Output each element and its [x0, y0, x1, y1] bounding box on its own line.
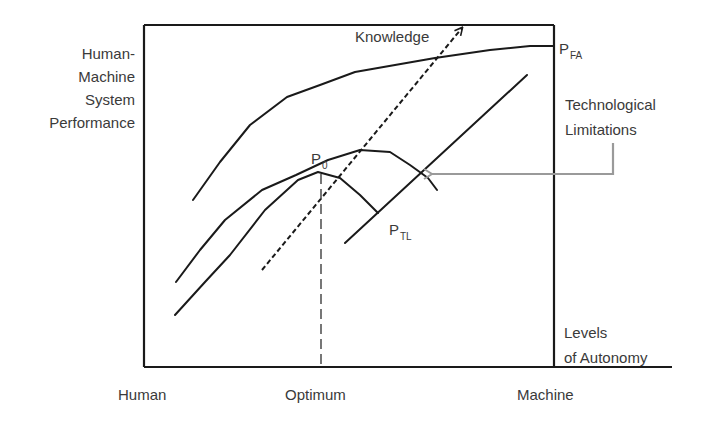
knowledge-arrow [262, 28, 462, 270]
p-tl-label: PTL [389, 218, 412, 243]
curve-full-autonomy [193, 46, 554, 200]
x-label-line-2: of Autonomy [564, 345, 647, 370]
p-tl-sub: TL [400, 231, 412, 242]
knowledge-label: Knowledge [355, 25, 429, 48]
p-tl-main: P [389, 221, 399, 238]
plot-frame [144, 25, 672, 367]
tech-limitations-label: Technological Limitations [565, 92, 656, 142]
tech-limitations-arrow [432, 143, 613, 174]
y-label-line-4: Performance [49, 111, 135, 134]
y-label-line-2: Machine [49, 65, 135, 88]
tech-limit-line [345, 75, 527, 243]
p-0-sub: 0 [322, 160, 328, 171]
x-tick-machine: Machine [517, 383, 574, 406]
p-fa-sub: FA [570, 50, 582, 61]
y-label-line-1: Human- [49, 42, 135, 65]
y-label-line-3: System [49, 88, 135, 111]
x-axis-label: Levels of Autonomy [564, 320, 647, 370]
p-0-main: P [311, 150, 321, 167]
p-fa-label: PFA [559, 37, 582, 62]
y-axis-label: Human- Machine System Performance [49, 42, 135, 134]
p-fa-main: P [559, 40, 569, 57]
tech-label-line-1: Technological [565, 92, 656, 117]
x-label-line-1: Levels [564, 320, 647, 345]
x-tick-optimum: Optimum [285, 383, 346, 406]
x-tick-human: Human [118, 383, 166, 406]
tech-label-line-2: Limitations [565, 117, 656, 142]
p-0-label: P0 [311, 147, 328, 172]
